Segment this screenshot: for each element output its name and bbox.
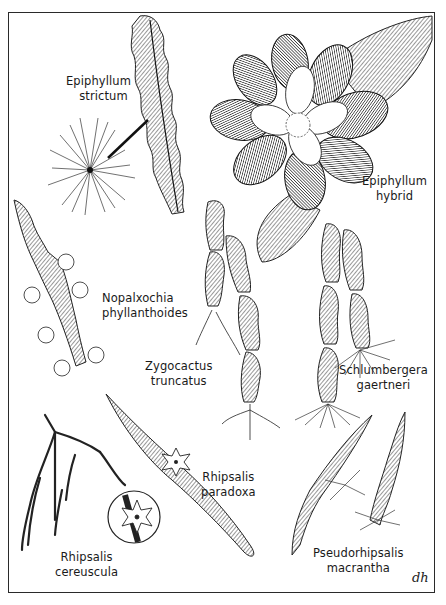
label-line-1: Rhipsalis (55, 550, 118, 565)
label-line-1: Nopalxochia (102, 291, 188, 306)
label-line-2: phyllanthoides (102, 306, 188, 321)
label-epiphyllum-strictum: Epiphyllum strictum (66, 74, 131, 104)
label-line-1: Epiphyllum (362, 174, 427, 189)
label-rhipsalis-paradoxa: Rhipsalis paradoxa (201, 470, 256, 500)
label-line-2: cereuscula (55, 565, 118, 580)
label-zygocactus-truncatus: Zygocactus truncatus (145, 359, 213, 389)
nopalxochia-phyllanthoides-drawing (14, 200, 104, 376)
label-line-1: Rhipsalis (201, 470, 256, 485)
label-line-2: macrantha (313, 561, 404, 576)
artist-signature: dh (412, 570, 429, 585)
label-line-2: truncatus (145, 374, 213, 389)
epiphyllum-strictum-drawing (48, 16, 184, 215)
label-nopalxochia-phyllanthoides: Nopalxochia phyllanthoides (102, 291, 188, 321)
label-line-2: strictum (66, 89, 131, 104)
label-pseudorhipsalis-macrantha: Pseudorhipsalis macrantha (313, 546, 404, 576)
label-schlumbergera-gaertneri: Schlumbergera gaertneri (339, 363, 428, 393)
label-line-1: Zygocactus (145, 359, 213, 374)
pseudorhipsalis-macrantha-drawing (292, 412, 405, 555)
label-rhipsalis-cereuscula: Rhipsalis cereuscula (55, 550, 118, 580)
label-epiphyllum-hybrid: Epiphyllum hybrid (362, 174, 427, 204)
label-line-2: hybrid (362, 189, 427, 204)
epiphyllum-hybrid-drawing (207, 16, 432, 262)
label-line-1: Schlumbergera (339, 363, 428, 378)
label-line-1: Epiphyllum (66, 74, 131, 89)
rhipsalis-cereuscula-drawing (22, 415, 125, 550)
schlumbergera-gaertneri-drawing (295, 224, 395, 428)
label-line-2: paradoxa (201, 485, 256, 500)
label-line-1: Pseudorhipsalis (313, 546, 404, 561)
label-line-2: gaertneri (339, 378, 428, 393)
